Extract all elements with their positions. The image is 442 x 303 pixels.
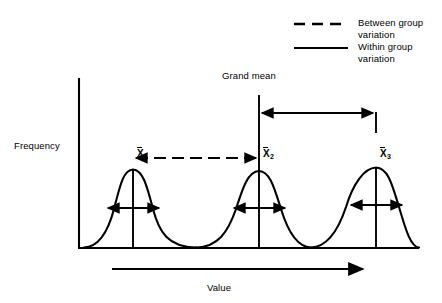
curve-group-2 [196, 171, 311, 248]
mean-symbol-2: X [263, 148, 270, 159]
grand-mean-label: Grand mean [222, 70, 276, 81]
legend-samples [294, 24, 348, 48]
mean-symbol-1: X [137, 148, 144, 159]
between-group-arrow-upper [262, 112, 376, 133]
mean-label-group-3: X3 [368, 137, 391, 171]
mean-label-group-1: X1 [125, 137, 148, 171]
anova-variation-figure: Between group variation Within group var… [0, 0, 442, 303]
y-axis-label: Frequency [14, 140, 60, 151]
mean-subscript-2: 2 [270, 153, 274, 160]
mean-subscript-3: 3 [387, 153, 391, 160]
mean-subscript-1: 1 [144, 153, 148, 160]
curve-group-3 [311, 168, 419, 248]
mean-label-group-2: X2 [251, 137, 274, 171]
mean-symbol-3: X [380, 148, 387, 159]
legend-label-between-group: Between group variation [358, 17, 423, 40]
x-axis-label: Value [207, 282, 231, 293]
legend-label-within-group: Within group variation [358, 41, 413, 64]
